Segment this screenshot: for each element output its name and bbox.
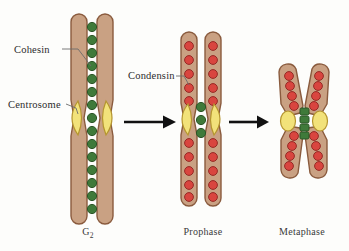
condensin-dot-prophase xyxy=(209,153,218,162)
cohesin-track-g2 xyxy=(87,22,96,213)
chromosome-condensation-figure: Cohesin Centrosome Condensin G2 Prophase… xyxy=(0,0,349,251)
condensin-dot-prophase xyxy=(185,70,194,79)
condensin-dot-prophase xyxy=(185,139,194,148)
condensin-dot-prophase xyxy=(185,56,194,65)
chromosome-g2 xyxy=(71,14,113,224)
cohesin-track-prophase xyxy=(196,102,205,137)
condensin-dot-metaphase xyxy=(290,132,299,141)
cohesin-dot-g2 xyxy=(87,152,96,161)
condensin-dot-prophase xyxy=(185,97,194,106)
cohesin-dot-g2 xyxy=(87,178,96,187)
condensin-dot-prophase xyxy=(185,42,194,51)
cohesin-dot-g2 xyxy=(87,87,96,96)
condensin-dot-metaphase xyxy=(314,152,323,161)
cohesin-track-metaphase xyxy=(300,108,309,139)
cohesin-dot-g2 xyxy=(87,100,96,109)
arrow-g2-to-prophase xyxy=(124,116,176,129)
condensin-dot-prophase xyxy=(209,139,218,148)
arrow-prophase-to-metaphase xyxy=(229,116,269,129)
cohesin-dot-g2 xyxy=(87,139,96,148)
cohesin-unit-metaphase xyxy=(300,108,309,115)
stage-label-g2-subscript: 2 xyxy=(90,231,94,240)
condensin-dot-metaphase xyxy=(312,92,321,101)
cohesin-dot-g2 xyxy=(87,126,96,135)
condensin-dot-prophase xyxy=(209,167,218,176)
cohesin-dot-g2 xyxy=(87,165,96,174)
condensin-dot-metaphase xyxy=(310,132,319,141)
cohesin-dot-g2 xyxy=(87,35,96,44)
condensin-dot-prophase xyxy=(209,181,218,190)
condensin-dot-metaphase xyxy=(288,92,297,101)
callout-label-condensin: Condensin xyxy=(128,70,175,81)
condensin-dot-prophase xyxy=(209,56,218,65)
stage-label-g2: G2 xyxy=(60,226,116,240)
condensin-dot-metaphase xyxy=(285,72,294,81)
cohesin-unit-metaphase xyxy=(300,124,309,131)
condensin-dot-metaphase xyxy=(285,162,294,171)
condensin-dot-metaphase xyxy=(286,82,295,91)
condensin-dot-prophase xyxy=(209,97,218,106)
condensin-dot-prophase xyxy=(185,193,194,202)
condensin-dot-metaphase xyxy=(312,142,321,151)
condensin-dot-prophase xyxy=(209,84,218,93)
callout-label-cohesin: Cohesin xyxy=(14,44,50,55)
centromere-metaphase-left xyxy=(281,111,296,131)
cohesin-dot-prophase xyxy=(196,128,205,137)
condensin-dot-prophase xyxy=(209,42,218,51)
condensin-dot-metaphase xyxy=(315,162,324,171)
cohesin-unit-metaphase xyxy=(300,116,309,123)
centromere-metaphase-right xyxy=(313,111,328,131)
stage-label-prophase: Prophase xyxy=(168,226,238,237)
condensin-dot-prophase xyxy=(209,70,218,79)
cohesin-dot-prophase xyxy=(196,115,205,124)
callout-label-centrosome: Centrosome xyxy=(8,99,61,110)
cohesin-dot-g2 xyxy=(87,22,96,31)
cohesin-dot-g2 xyxy=(87,48,96,57)
stage-label-metaphase: Metaphase xyxy=(262,226,342,237)
condensin-dot-prophase xyxy=(185,181,194,190)
chromosome-metaphase xyxy=(279,64,329,178)
stage-label-g2-text: G xyxy=(82,226,90,237)
condensin-dot-prophase xyxy=(185,167,194,176)
condensin-dot-prophase xyxy=(209,193,218,202)
diagram-canvas xyxy=(0,0,349,251)
condensin-dot-metaphase xyxy=(315,72,324,81)
cohesin-unit-metaphase xyxy=(300,132,309,139)
condensin-dot-metaphase xyxy=(314,82,323,91)
condensin-dot-prophase xyxy=(185,153,194,162)
condensin-dot-metaphase xyxy=(288,142,297,151)
condensin-dot-metaphase xyxy=(290,102,299,111)
condensin-dot-metaphase xyxy=(310,102,319,111)
cohesin-dot-g2 xyxy=(87,191,96,200)
chromosome-prophase xyxy=(181,32,221,206)
cohesin-dot-g2 xyxy=(87,74,96,83)
cohesin-dot-prophase xyxy=(196,102,205,111)
cohesin-dot-g2 xyxy=(87,113,96,122)
cohesin-dot-g2 xyxy=(87,204,96,213)
condensin-dot-metaphase xyxy=(286,152,295,161)
